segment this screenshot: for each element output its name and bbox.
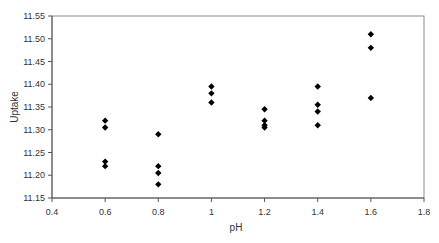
y-tick-label: 11.50 [23, 34, 45, 44]
x-tick-label: 0.8 [152, 207, 165, 217]
y-axis-title: Uptake [9, 91, 20, 123]
data-point-diamond [368, 31, 374, 37]
y-tick-label: 11.40 [23, 79, 45, 89]
data-point-diamond [102, 117, 108, 123]
y-tick-label: 11.55 [23, 11, 45, 21]
scatter-chart: 11.1511.2011.2511.3011.3511.4011.4511.50… [0, 0, 439, 243]
data-point-diamond [315, 122, 321, 128]
y-tick-label: 11.35 [23, 102, 45, 112]
x-tick-label: 1.4 [311, 207, 324, 217]
y-tick-label: 11.45 [23, 57, 45, 67]
data-point-diamond [155, 163, 161, 169]
data-point-diamond [315, 102, 321, 108]
x-tick-label: 0.4 [46, 207, 59, 217]
data-points [102, 31, 374, 188]
y-tick-label: 11.20 [23, 170, 45, 180]
x-tick-label: 0.6 [99, 207, 112, 217]
x-axis: 0.40.60.811.21.41.61.8 [46, 198, 431, 217]
y-tick-label: 11.25 [23, 148, 45, 158]
plot-area [52, 16, 424, 198]
data-point-diamond [261, 106, 267, 112]
data-point-diamond [155, 170, 161, 176]
data-point-diamond [315, 108, 321, 114]
data-point-diamond [208, 90, 214, 96]
data-point-diamond [368, 95, 374, 101]
data-point-diamond [155, 181, 161, 187]
x-tick-label: 1 [209, 207, 214, 217]
x-tick-label: 1.6 [365, 207, 378, 217]
data-point-diamond [102, 124, 108, 130]
y-axis: 11.1511.2011.2511.3011.3511.4011.4511.50… [23, 11, 52, 203]
data-point-diamond [102, 163, 108, 169]
data-point-diamond [368, 45, 374, 51]
data-point-diamond [208, 99, 214, 105]
data-point-diamond [208, 83, 214, 89]
y-tick-label: 11.15 [23, 193, 45, 203]
data-point-diamond [155, 131, 161, 137]
data-point-diamond [315, 83, 321, 89]
y-tick-label: 11.30 [23, 125, 45, 135]
x-tick-label: 1.8 [418, 207, 431, 217]
x-axis-title: pH [230, 222, 243, 233]
x-tick-label: 1.2 [258, 207, 271, 217]
